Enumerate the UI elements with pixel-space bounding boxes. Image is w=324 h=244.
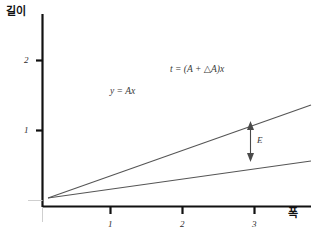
x-axis-title: 폭: [288, 208, 298, 219]
y-tick-label-2: 2: [24, 56, 29, 65]
lower-line-series: [48, 161, 311, 198]
plot-drawing: [0, 0, 324, 244]
upper-line-series: [48, 105, 311, 198]
lower-line-equation-label: y = Ax: [110, 87, 135, 97]
error-arrow-head-down: [247, 153, 254, 162]
y-tick-label-1: 1: [24, 126, 29, 135]
x-tick-label-3: 3: [252, 220, 257, 229]
y-axis-title: 길이: [6, 6, 26, 17]
x-tick-label-2: 2: [180, 220, 185, 229]
error-magnitude-label: E: [257, 136, 263, 145]
figure-canvas: 길이 폭 2 1 1 2 3 t = (A + △A)x y = Ax E: [0, 0, 324, 244]
upper-line-equation-label: t = (A + △A)x: [170, 65, 224, 75]
x-tick-label-1: 1: [108, 220, 113, 229]
